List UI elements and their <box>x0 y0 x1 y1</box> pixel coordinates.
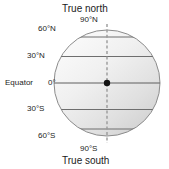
label-equator: Equator <box>5 79 33 87</box>
label-latitude-60n: 60°N <box>38 25 56 33</box>
label-true-south: True south <box>62 156 109 166</box>
label-latitude-30n: 30°N <box>27 52 45 60</box>
label-latitude-60s: 60°S <box>38 132 55 140</box>
label-latitude-0: 0° <box>48 79 56 87</box>
label-pole-north: 90°N <box>80 16 98 24</box>
earth-latitude-diagram: True north 90°N 60°N 30°N Equator 0° 30°… <box>0 0 169 169</box>
earth-center-dot <box>104 80 110 86</box>
label-true-north: True north <box>62 4 108 14</box>
label-pole-south: 90°S <box>80 145 97 153</box>
label-latitude-30s: 30°S <box>27 105 44 113</box>
